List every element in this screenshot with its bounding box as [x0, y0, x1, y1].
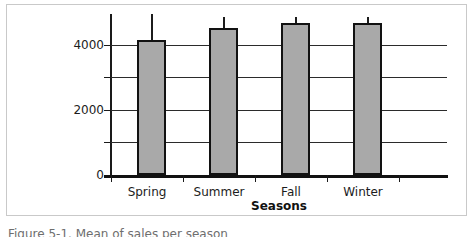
- plot-area: [111, 17, 447, 175]
- x-axis-label-summer: Summer: [183, 186, 255, 199]
- error-bar-spring: [151, 14, 153, 40]
- y-axis-label-0: 0: [58, 169, 104, 181]
- y-axis-labels: 4000 2000 0: [58, 0, 104, 200]
- y-axis-label-2000: 2000: [58, 104, 104, 116]
- x-axis-label-winter: Winter: [327, 186, 399, 199]
- figure-container: 4000 2000 0 Spring Summer Fall Winter: [0, 0, 475, 237]
- bar-winter[interactable]: [353, 23, 382, 175]
- figure-caption: Figure 5-1. Mean of sales per season: [8, 228, 468, 237]
- bar-spring[interactable]: [137, 40, 166, 175]
- x-axis-title: Seasons: [111, 200, 447, 213]
- x-axis-line: [104, 175, 448, 178]
- x-tick-1: [183, 175, 184, 182]
- x-axis-label-spring: Spring: [111, 186, 183, 199]
- bar-fall[interactable]: [281, 23, 310, 175]
- y-axis-label-4000: 4000: [58, 39, 104, 51]
- x-tick-start: [111, 175, 112, 182]
- x-tick-4: [399, 175, 400, 182]
- x-axis-label-fall: Fall: [255, 186, 327, 199]
- x-tick-2: [255, 175, 256, 182]
- error-bar-summer: [223, 17, 225, 28]
- x-tick-3: [327, 175, 328, 182]
- bar-summer[interactable]: [209, 28, 238, 175]
